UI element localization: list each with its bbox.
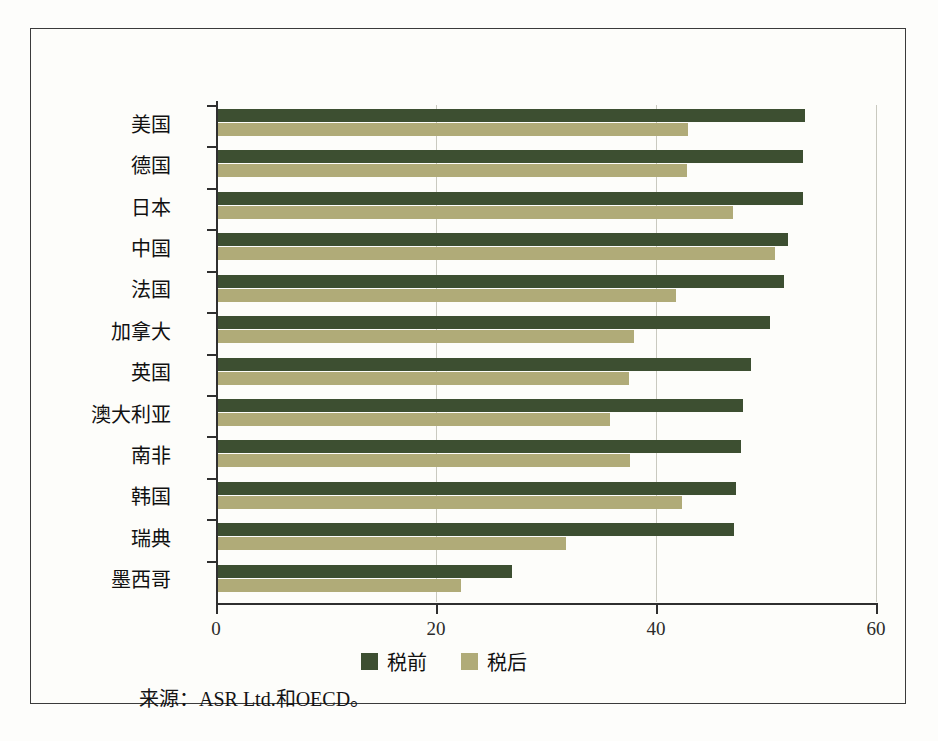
bar-group — [216, 188, 876, 229]
y-axis-tick — [207, 188, 217, 190]
x-axis-tick-label: 60 — [846, 618, 906, 640]
bar-pre-tax — [216, 192, 803, 205]
bar-pre-tax — [216, 523, 734, 536]
bar-pre-tax — [216, 565, 512, 578]
category-label: 中国 — [31, 238, 171, 260]
bar-group — [216, 312, 876, 353]
bar-group — [216, 395, 876, 436]
bar-pre-tax — [216, 316, 770, 329]
y-axis-tick — [207, 312, 217, 314]
x-axis-tick-label: 40 — [626, 618, 686, 640]
y-axis-tick — [207, 519, 217, 521]
legend-item: 税后 — [461, 647, 527, 676]
category-label: 墨西哥 — [31, 569, 171, 591]
x-axis-tick-label: 20 — [406, 618, 466, 640]
category-label: 日本 — [31, 197, 171, 219]
plot-area — [216, 105, 876, 602]
bar-post-tax — [216, 537, 566, 550]
legend-item: 税前 — [361, 647, 427, 676]
bar-pre-tax — [216, 358, 751, 371]
category-label: 加拿大 — [31, 321, 171, 343]
x-axis-tick — [656, 603, 658, 614]
x-axis-tick-label: 0 — [186, 618, 246, 640]
y-axis-tick — [207, 105, 217, 107]
y-axis-tick — [207, 395, 217, 397]
x-axis-tick — [436, 603, 438, 614]
bar-pre-tax — [216, 440, 741, 453]
bar-group — [216, 478, 876, 519]
legend-swatch-icon — [461, 653, 478, 670]
bar-pre-tax — [216, 482, 736, 495]
bar-pre-tax — [216, 233, 788, 246]
y-axis-tick — [207, 354, 217, 356]
x-axis-line — [216, 603, 878, 605]
legend-label: 税前 — [387, 647, 427, 676]
category-label: 韩国 — [31, 486, 171, 508]
y-axis-tick — [207, 561, 217, 563]
bar-post-tax — [216, 330, 634, 343]
gridline-60 — [876, 105, 877, 602]
bar-group — [216, 229, 876, 270]
y-axis-tick — [207, 271, 217, 273]
category-label: 南非 — [31, 445, 171, 467]
bar-post-tax — [216, 164, 687, 177]
bar-group — [216, 354, 876, 395]
bar-post-tax — [216, 372, 629, 385]
category-label: 美国 — [31, 114, 171, 136]
category-label: 德国 — [31, 155, 171, 177]
bar-group — [216, 561, 876, 602]
figure-frame: 美国德国日本中国法国加拿大英国澳大利亚南非韩国瑞典墨西哥 0204060 税前税… — [30, 28, 906, 704]
y-axis-tick — [207, 146, 217, 148]
chart-page: 美国德国日本中国法国加拿大英国澳大利亚南非韩国瑞典墨西哥 0204060 税前税… — [0, 0, 938, 741]
bar-post-tax — [216, 496, 682, 509]
bar-pre-tax — [216, 399, 743, 412]
bar-post-tax — [216, 206, 733, 219]
y-axis-tick — [207, 478, 217, 480]
bar-pre-tax — [216, 150, 803, 163]
category-label: 澳大利亚 — [31, 404, 171, 426]
bar-post-tax — [216, 579, 461, 592]
bar-post-tax — [216, 247, 775, 260]
bar-post-tax — [216, 413, 610, 426]
category-label: 瑞典 — [31, 528, 171, 550]
bar-group — [216, 436, 876, 477]
legend-swatch-icon — [361, 653, 378, 670]
bar-group — [216, 105, 876, 146]
bar-group — [216, 519, 876, 560]
bar-post-tax — [216, 289, 676, 302]
y-axis-tick — [207, 436, 217, 438]
bar-group — [216, 146, 876, 187]
bar-pre-tax — [216, 275, 784, 288]
bar-pre-tax — [216, 109, 805, 122]
chart-legend: 税前税后 — [361, 647, 527, 676]
category-label: 英国 — [31, 362, 171, 384]
bar-post-tax — [216, 454, 630, 467]
legend-label: 税后 — [487, 647, 527, 676]
category-label: 法国 — [31, 279, 171, 301]
bar-post-tax — [216, 123, 688, 136]
source-note: 来源：ASR Ltd.和OECD。 — [139, 683, 370, 712]
x-axis-tick — [216, 603, 218, 614]
y-axis-tick — [207, 229, 217, 231]
bar-group — [216, 271, 876, 312]
x-axis-tick — [876, 603, 878, 614]
